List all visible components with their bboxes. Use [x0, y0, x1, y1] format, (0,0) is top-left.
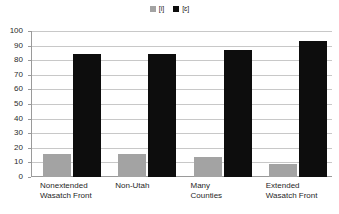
y-tick-label: 50 [0, 100, 23, 108]
chart-legend: [i] [ɛ] [0, 2, 339, 16]
x-tick-label-line: Many [191, 181, 257, 191]
bar-group [257, 31, 332, 177]
x-tick-label-line: Wasatch Front [266, 191, 332, 201]
y-tick-label: 20 [0, 144, 23, 152]
bar-chart: [i] [ɛ] 1009080706050403020100 Nonextend… [0, 0, 339, 214]
legend-item-epsilon: [ɛ] [173, 5, 189, 13]
bar-i [269, 164, 297, 177]
bar-epsilon [224, 50, 252, 177]
legend-label-i: [i] [159, 5, 164, 13]
y-tick-label: 100 [0, 27, 23, 35]
y-tick-label: 70 [0, 71, 23, 79]
x-axis-labels: NonextendedWasatch FrontNon-UtahManyCoun… [31, 181, 332, 211]
bar-i [118, 154, 146, 177]
x-tick-label: Non-Utah [106, 181, 181, 211]
bar-epsilon [148, 54, 176, 177]
bar-i [43, 154, 71, 177]
y-tick-label: 40 [0, 115, 23, 123]
y-tick-label: 90 [0, 42, 23, 50]
x-tick-label-line: Wasatch Front [40, 191, 106, 201]
bar-group [106, 31, 181, 177]
x-tick-label: NonextendedWasatch Front [31, 181, 106, 211]
bar-groups [31, 31, 332, 177]
bar-group [182, 31, 257, 177]
y-tick-label: 0 [0, 173, 23, 181]
x-tick-label-line: Counties [191, 191, 257, 201]
legend-swatch-epsilon [173, 6, 179, 12]
bar-epsilon [73, 54, 101, 177]
bar-group [31, 31, 106, 177]
legend-swatch-i [150, 6, 156, 12]
bar-epsilon [299, 41, 327, 177]
x-tick-label-line: Nonextended [40, 181, 106, 191]
y-tick-label: 60 [0, 85, 23, 93]
y-tick-label: 30 [0, 129, 23, 137]
legend-item-i: [i] [150, 5, 164, 13]
x-tick-label-line: Non-Utah [115, 181, 181, 191]
plot-area [31, 31, 332, 177]
y-tick-mark [28, 177, 31, 178]
legend-label-epsilon: [ɛ] [182, 5, 189, 13]
bar-i [194, 157, 222, 177]
x-tick-label: ExtendedWasatch Front [257, 181, 332, 211]
y-tick-label: 10 [0, 158, 23, 166]
y-tick-label: 80 [0, 56, 23, 64]
x-tick-label-line: Extended [266, 181, 332, 191]
x-tick-label: ManyCounties [182, 181, 257, 211]
